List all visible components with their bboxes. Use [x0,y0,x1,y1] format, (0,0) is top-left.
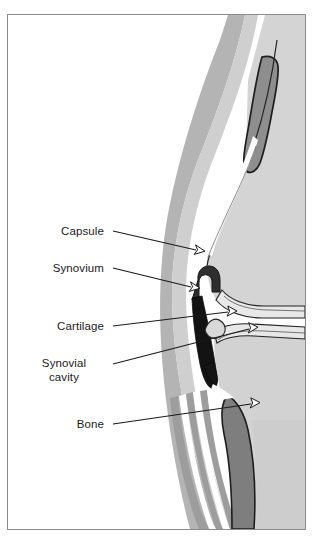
label-cartilage: Cartilage [19,319,104,333]
label-synovial-cavity-line2: cavity [24,370,104,384]
label-synovium: Synovium [14,261,104,275]
label-capsule-text: Capsule [61,225,104,237]
label-bone-text: Bone [77,418,104,430]
illustration-body [113,15,305,529]
diagram-page: Capsule Synovium Cartilage Synovial cavi… [0,0,317,547]
label-synovium-text: Synovium [53,262,104,274]
label-synovial-cavity-line1: Synovial [24,356,104,370]
label-cartilage-text: Cartilage [57,320,104,332]
label-bone: Bone [34,417,104,431]
label-capsule: Capsule [24,224,104,238]
lower-bone-shading [252,420,305,529]
label-synovial-cavity: Synovial cavity [24,356,104,384]
